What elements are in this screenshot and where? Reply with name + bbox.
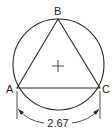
vertex-label-a: A xyxy=(6,83,14,95)
geometry-diagram: A B C 2.67 xyxy=(0,0,112,137)
vertex-label-b: B xyxy=(54,5,61,17)
dimension-value: 2.67 xyxy=(47,117,68,129)
vertex-label-c: C xyxy=(102,83,110,95)
circumscribed-circle xyxy=(13,19,104,110)
center-mark-icon xyxy=(52,60,64,72)
